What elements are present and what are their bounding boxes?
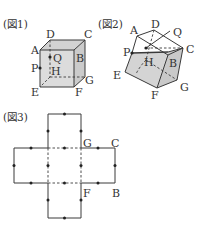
label-f: F — [83, 187, 91, 200]
label-q: Q — [53, 52, 62, 65]
label-e: E — [113, 69, 121, 82]
label-q: Q — [173, 26, 182, 39]
figure-2: (図2) A D Q C P — [98, 18, 194, 102]
label-h: H — [144, 56, 154, 69]
net-outline — [14, 114, 115, 218]
label-p: P — [123, 46, 131, 59]
point-p — [130, 51, 133, 54]
figure-3-title: (図3) — [3, 111, 28, 123]
figure-3: (図3) G C — [3, 111, 120, 220]
label-a: A — [129, 24, 139, 37]
fold-lines — [48, 148, 81, 183]
point-q — [48, 55, 51, 58]
label-d: D — [46, 28, 55, 41]
label-c: C — [84, 28, 92, 41]
label-h: H — [51, 65, 61, 78]
label-g: G — [180, 81, 189, 94]
midpoints — [13, 113, 117, 220]
figure-1-title: (図1) — [3, 18, 28, 30]
label-f: F — [75, 86, 83, 99]
figure-2-title: (図2) — [98, 18, 123, 30]
label-a: A — [30, 44, 40, 57]
label-b: B — [169, 57, 177, 70]
label-b: B — [76, 52, 84, 65]
label-d: D — [151, 18, 160, 31]
label-g: G — [83, 137, 92, 150]
label-c: C — [111, 137, 119, 150]
label-g: G — [85, 74, 94, 87]
figure-1: (図1) D C A B Q P H G E F — [3, 18, 94, 99]
label-f: F — [151, 89, 159, 102]
point-q — [144, 46, 147, 49]
diagram-canvas: (図1) D C A B Q P H G E F (図2) — [0, 0, 206, 228]
point-p — [38, 66, 41, 69]
label-p: P — [31, 62, 39, 75]
label-e: E — [31, 86, 39, 99]
label-b: B — [112, 187, 120, 200]
label-c: C — [186, 43, 194, 56]
